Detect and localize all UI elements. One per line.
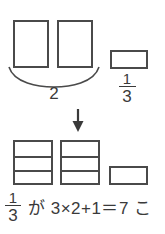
fraction-one-third-top: 1 3 xyxy=(113,72,141,106)
third-divider-line xyxy=(15,170,51,172)
one-third-strip-top xyxy=(110,50,148,69)
brace-count-label: 2 xyxy=(8,84,100,103)
diagram-canvas: 2 1 3 1 3 が 3×2+1＝7 こ xyxy=(0,0,165,234)
fraction-denominator: 3 xyxy=(113,87,141,106)
whole-unit-square-b xyxy=(57,20,93,68)
thirds-divided-square-a xyxy=(13,140,53,185)
whole-unit-square-a xyxy=(13,20,49,68)
thirds-divided-square-b xyxy=(60,140,100,185)
third-divider-line xyxy=(62,170,98,172)
third-divider-line xyxy=(15,156,51,158)
one-third-strip-bottom xyxy=(109,166,148,185)
fraction-denominator: 3 xyxy=(1,206,25,225)
caption-equation-text: が 3×2+1＝7 こ xyxy=(25,196,152,220)
fraction-numerator: 1 xyxy=(1,191,25,205)
arrow-down-icon xyxy=(70,108,86,133)
fraction-one-third-caption: 1 3 xyxy=(1,191,25,225)
caption-row: 1 3 が 3×2+1＝7 こ xyxy=(0,188,165,228)
fraction-numerator: 1 xyxy=(113,72,141,86)
third-divider-line xyxy=(62,156,98,158)
